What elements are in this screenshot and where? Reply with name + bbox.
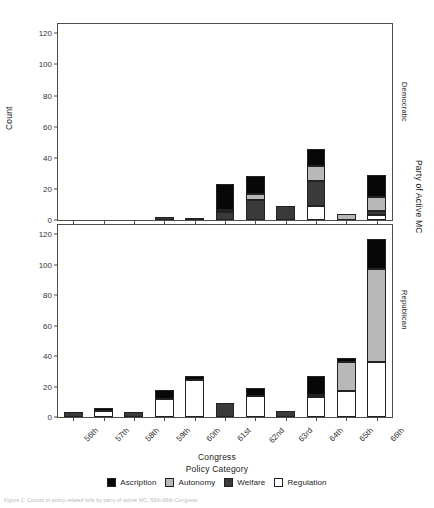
bar-segment-regulation[interactable] — [94, 411, 113, 417]
bar-61st[interactable] — [216, 184, 235, 220]
bar-58th[interactable] — [124, 412, 143, 417]
bar-segment-welfare[interactable] — [307, 181, 326, 206]
y-axis-tick-mark — [54, 295, 58, 296]
bar-59th[interactable] — [155, 390, 174, 417]
bar-segment-ascription[interactable] — [155, 390, 174, 399]
y-axis-tick-label: 20 — [12, 382, 58, 391]
bar-segment-regulation[interactable] — [246, 396, 265, 417]
legend-item-welfare[interactable]: Welfare — [224, 478, 265, 487]
panel-democratic: 020406080100120 — [57, 23, 393, 221]
y-axis-tick-label: 120 — [12, 230, 58, 239]
bar-57th[interactable] — [94, 408, 113, 417]
figure-container: Count 020406080100120 020406080100120 De… — [0, 0, 434, 508]
bar-segment-regulation[interactable] — [307, 206, 326, 220]
bar-segment-autonomy[interactable] — [307, 166, 326, 182]
x-axis-tick-label: 64th — [327, 426, 344, 443]
bar-64th[interactable] — [307, 376, 326, 417]
bar-65th[interactable] — [337, 214, 356, 220]
bar-segment-regulation[interactable] — [367, 362, 386, 417]
bar-63rd[interactable] — [276, 206, 295, 220]
bar-segment-welfare[interactable] — [216, 212, 235, 220]
right-axis-title: Party of Active MC — [414, 160, 424, 234]
bar-60th[interactable] — [185, 376, 204, 417]
bar-segment-welfare[interactable] — [155, 217, 174, 220]
y-axis-tick-mark — [54, 417, 58, 418]
bar-62nd[interactable] — [246, 176, 265, 220]
bar-62nd[interactable] — [246, 388, 265, 417]
strip-label-democratic: Democratic — [400, 82, 409, 122]
panel-republican: 020406080100120 — [57, 224, 393, 418]
bar-segment-regulation[interactable] — [155, 399, 174, 417]
bar-segment-autonomy[interactable] — [367, 269, 386, 362]
bar-segment-regulation[interactable] — [307, 397, 326, 417]
bar-segment-regulation[interactable] — [337, 391, 356, 417]
x-axis-tick-label: 66th — [388, 426, 405, 443]
bar-segment-ascription[interactable] — [246, 176, 265, 193]
bar-segment-welfare[interactable] — [124, 412, 143, 417]
x-axis-tick-label: 59th — [174, 426, 191, 443]
bar-segment-welfare[interactable] — [185, 218, 204, 220]
y-axis-tick-mark — [54, 220, 58, 221]
bar-segment-autonomy[interactable] — [337, 362, 356, 391]
legend-label-welfare: Welfare — [237, 478, 265, 487]
x-axis-tick-mark — [195, 417, 196, 421]
legend-label-ascription: Ascription — [120, 478, 156, 487]
bar-61st[interactable] — [216, 403, 235, 417]
bar-segment-regulation[interactable] — [185, 380, 204, 417]
figure-caption: Figure 1: Counts of policy-related bills… — [4, 497, 430, 503]
y-axis-tick-label: 0 — [12, 216, 58, 225]
legend-item-autonomy[interactable]: Autonomy — [165, 478, 215, 487]
y-axis-tick-label: 120 — [12, 29, 58, 38]
bar-segment-welfare[interactable] — [246, 200, 265, 220]
x-axis-tick-label: 57th — [113, 426, 130, 443]
legend-swatch-welfare — [224, 478, 233, 487]
x-axis-tick-mark — [377, 417, 378, 421]
bar-segment-ascription[interactable] — [367, 239, 386, 269]
bar-60th[interactable] — [185, 218, 204, 220]
x-axis-tick-label: 56th — [83, 426, 100, 443]
bar-segment-welfare[interactable] — [276, 411, 295, 417]
y-axis-tick-label: 60 — [12, 321, 58, 330]
y-axis-tick-label: 100 — [12, 60, 58, 69]
bar-segment-ascription[interactable] — [367, 175, 386, 197]
y-axis-tick-mark — [54, 264, 58, 265]
y-axis-tick-mark — [54, 356, 58, 357]
y-axis-tick-label: 0 — [12, 413, 58, 422]
y-axis-tick-mark — [54, 386, 58, 387]
x-axis-tick-label: 62nd — [267, 426, 286, 445]
bar-66th[interactable] — [367, 175, 386, 220]
y-axis-tick-mark — [54, 95, 58, 96]
y-axis-tick-label: 40 — [12, 153, 58, 162]
bar-65th[interactable] — [337, 358, 356, 417]
strip-label-republican: Republican — [400, 290, 409, 330]
legend-item-regulation[interactable]: Regulation — [274, 478, 326, 487]
bar-segment-ascription[interactable] — [307, 376, 326, 396]
y-axis-tick-mark — [54, 126, 58, 127]
bar-segment-welfare[interactable] — [64, 412, 83, 417]
y-axis-tick-label: 40 — [12, 352, 58, 361]
bar-segment-welfare[interactable] — [276, 206, 295, 220]
bar-segment-ascription[interactable] — [307, 149, 326, 166]
y-axis-tick-label: 100 — [12, 260, 58, 269]
legend: AscriptionAutonomyWelfareRegulation — [0, 478, 434, 487]
bar-segment-welfare[interactable] — [216, 403, 235, 417]
bar-59th[interactable] — [155, 217, 174, 220]
y-axis-tick-mark — [54, 325, 58, 326]
y-axis-tick-label: 20 — [12, 184, 58, 193]
bar-66th[interactable] — [367, 239, 386, 417]
bar-segment-ascription[interactable] — [216, 184, 235, 210]
bar-segment-regulation[interactable] — [367, 215, 386, 220]
x-axis-tick-label: 65th — [358, 426, 375, 443]
bar-63rd[interactable] — [276, 411, 295, 417]
x-axis-tick-label: 63rd — [297, 426, 315, 444]
y-axis-tick-label: 60 — [12, 122, 58, 131]
bar-56th[interactable] — [64, 412, 83, 417]
legend-item-ascription[interactable]: Ascription — [107, 478, 156, 487]
bar-segment-autonomy[interactable] — [337, 214, 356, 220]
bar-segment-ascription[interactable] — [246, 388, 265, 396]
x-axis-tick-mark — [134, 417, 135, 421]
bar-segment-autonomy[interactable] — [367, 197, 386, 211]
y-axis-tick-mark — [54, 64, 58, 65]
bar-64th[interactable] — [307, 148, 326, 220]
x-axis-title: Congress — [0, 452, 434, 462]
